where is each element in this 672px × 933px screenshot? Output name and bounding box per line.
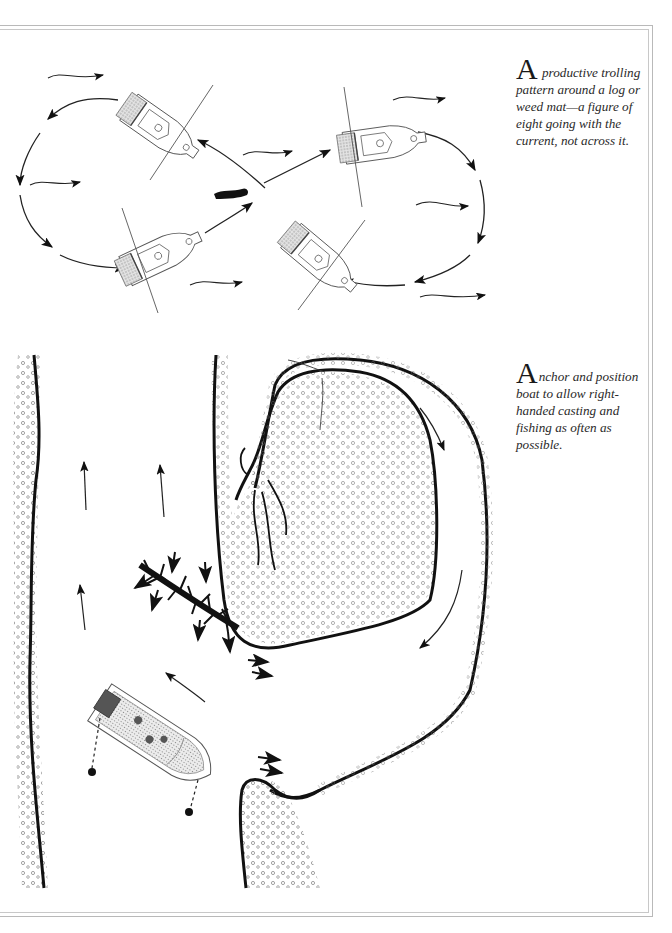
- current-arrows: [30, 75, 485, 297]
- island-gravel: [212, 355, 437, 644]
- trolling-pattern-diagram: [0, 55, 510, 325]
- drop-cap: A: [516, 52, 538, 85]
- anchor-position-diagram: [0, 345, 510, 890]
- anchor-rope: [190, 780, 198, 810]
- drop-cap: A: [516, 356, 538, 389]
- boat-icon: [276, 219, 364, 300]
- figure-eight-path: [20, 99, 484, 286]
- anchor-icon: [88, 768, 96, 776]
- boat-icon: [115, 91, 205, 168]
- anchor-icon: [185, 808, 193, 816]
- caption-anchor-position: Anchor and position boat to allow right-…: [516, 362, 648, 453]
- boat-icon: [113, 222, 206, 288]
- caption-trolling-pattern: A productive trolling pattern around a l…: [516, 58, 648, 149]
- log-icon: [214, 188, 248, 199]
